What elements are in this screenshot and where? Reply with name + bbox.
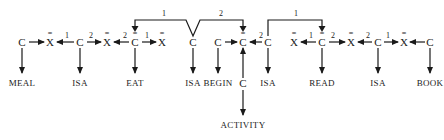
bracket-read: 1 <box>268 9 326 36</box>
svg-text:C: C <box>374 36 381 48</box>
svg-text:C: C <box>426 36 433 48</box>
svg-text:X: X <box>290 36 298 48</box>
label-eat: EAT <box>126 78 144 88</box>
svg-text:C: C <box>239 36 246 48</box>
svg-text:C: C <box>18 36 25 48</box>
label-book: BOOK <box>417 78 444 88</box>
node-x-4: = X <box>290 29 298 48</box>
label-isa-3: ISA <box>260 78 276 88</box>
svg-text:X: X <box>400 36 408 48</box>
label-begin: BEGIN <box>204 78 233 88</box>
svg-text:2: 2 <box>259 31 263 40</box>
svg-text:X: X <box>103 36 111 48</box>
label-isa-4: ISA <box>370 78 386 88</box>
semantic-network-diagram: C = X C = X = C = X C C = C C = X = C = … <box>0 0 444 140</box>
node-c-isa-2: C <box>189 36 196 48</box>
node-c-begin: C <box>214 36 221 48</box>
node-x-2: = X <box>103 29 111 48</box>
node-x-1: = X <box>46 29 54 48</box>
svg-text:X: X <box>347 36 355 48</box>
svg-text:C: C <box>189 36 196 48</box>
svg-text:1: 1 <box>386 31 390 40</box>
terminal-labels: MEAL ISA EAT ISA BEGIN ISA READ ISA BOOK… <box>9 78 444 130</box>
label-read: READ <box>309 78 335 88</box>
svg-text:X: X <box>158 36 166 48</box>
svg-text:1: 1 <box>309 31 313 40</box>
node-x-3: = X <box>158 29 166 48</box>
label-activity: ACTIVITY <box>221 120 266 130</box>
svg-text:X: X <box>46 36 54 48</box>
svg-text:1: 1 <box>65 31 69 40</box>
svg-text:C: C <box>214 36 221 48</box>
label-isa-1: ISA <box>72 78 88 88</box>
svg-text:2: 2 <box>123 31 127 40</box>
node-x-6: = X <box>400 29 408 48</box>
svg-text:2: 2 <box>331 31 335 40</box>
svg-text:2: 2 <box>89 31 93 40</box>
node-c-book: C <box>426 36 433 48</box>
node-c-meal: C <box>18 36 25 48</box>
svg-text:C: C <box>264 36 271 48</box>
node-x-5: = X <box>347 29 355 48</box>
svg-text:C: C <box>239 77 246 89</box>
svg-text:C: C <box>131 36 138 48</box>
svg-text:1: 1 <box>294 9 298 18</box>
label-meal: MEAL <box>9 78 36 88</box>
svg-text:C: C <box>76 36 83 48</box>
svg-text:1: 1 <box>162 9 166 18</box>
svg-text:2: 2 <box>219 9 223 18</box>
edges-horizontal: 1 2 2 1 2 1 2 2 1 <box>29 31 425 42</box>
node-c-isa-4: C <box>374 36 381 48</box>
bracket-line <box>135 20 243 36</box>
node-c-activity: C <box>239 77 246 89</box>
label-isa-2: ISA <box>185 78 201 88</box>
node-c-isa-3: C <box>264 36 271 48</box>
svg-text:C: C <box>318 36 325 48</box>
svg-text:1: 1 <box>145 31 149 40</box>
svg-text:2: 2 <box>366 31 370 40</box>
node-c-isa-1: C <box>76 36 83 48</box>
